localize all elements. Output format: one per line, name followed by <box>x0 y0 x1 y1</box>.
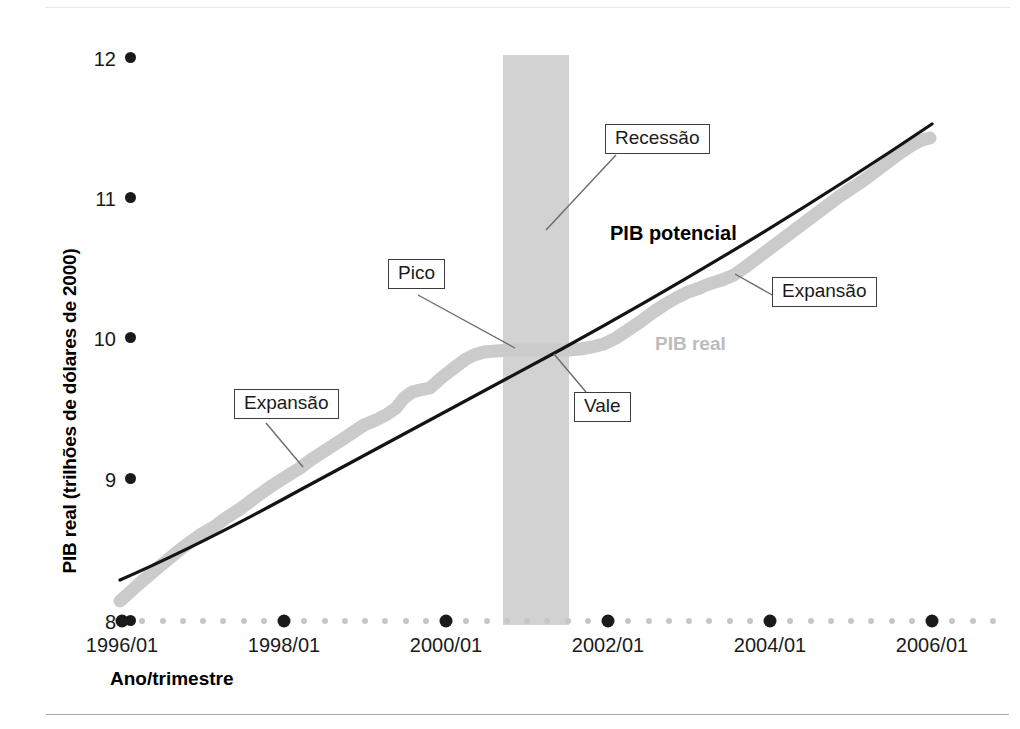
x-tick-dot-minor-icon <box>160 618 166 624</box>
leader-line-expansao-right <box>735 274 774 296</box>
x-tick-dot-minor-icon <box>544 618 550 624</box>
x-tick-label-2004: 2004/01 <box>734 634 806 657</box>
x-tick-dot-minor-icon <box>848 618 854 624</box>
x-tick-dot-minor-icon <box>706 618 712 624</box>
x-tick-dot-minor-icon <box>868 618 874 624</box>
annotation-pico: Pico <box>388 259 445 289</box>
x-tick-dot-minor-icon <box>565 618 571 624</box>
y-tick-dot-icon <box>125 332 136 343</box>
x-tick-dot-major-icon <box>764 615 777 628</box>
annotation-vale: Vale <box>574 392 631 422</box>
series-label-pib-real: PIB real <box>655 333 726 355</box>
x-tick-dot-minor-icon <box>220 618 226 624</box>
series-label-pib-potencial: PIB potencial <box>610 222 737 245</box>
x-tick-dot-major-icon <box>440 615 453 628</box>
x-tick-dot-minor-icon <box>828 618 834 624</box>
y-tick-12: 12 <box>82 47 136 67</box>
x-tick-dot-major-icon <box>926 615 939 628</box>
x-tick-dot-minor-icon <box>909 618 915 624</box>
x-tick-dot-minor-icon <box>625 618 631 624</box>
x-axis-title: Ano/trimestre <box>110 668 234 690</box>
x-tick-dot-minor-icon <box>504 618 510 624</box>
y-tick-10: 10 <box>82 327 136 347</box>
y-tick-dot-icon <box>125 192 136 203</box>
y-tick-label-8: 8 <box>82 612 116 632</box>
y-tick-dot-icon <box>125 52 136 63</box>
y-tick-label-11: 11 <box>82 189 116 209</box>
x-tick-dot-minor-icon <box>342 618 348 624</box>
x-tick-dot-minor-icon <box>403 618 409 624</box>
x-tick-dot-minor-icon <box>322 618 328 624</box>
x-tick-dot-minor-icon <box>301 618 307 624</box>
x-tick-label-2002: 2002/01 <box>572 634 644 657</box>
y-axis-title: PIB real (trilhões de dólares de 2000) <box>59 191 81 631</box>
x-tick-dot-minor-icon <box>139 618 145 624</box>
x-tick-dot-minor-icon <box>747 618 753 624</box>
x-tick-dot-minor-icon <box>180 618 186 624</box>
x-tick-dot-minor-icon <box>524 618 530 624</box>
x-tick-dot-minor-icon <box>382 618 388 624</box>
x-tick-label-1996: 1996/01 <box>86 634 158 657</box>
x-tick-label-2000: 2000/01 <box>410 634 482 657</box>
x-tick-dot-major-icon <box>602 615 615 628</box>
x-tick-dot-minor-icon <box>423 618 429 624</box>
x-tick-dot-minor-icon <box>990 618 996 624</box>
annotation-expansao-right: Expansão <box>772 277 877 307</box>
recession-shaded-band <box>503 55 569 625</box>
x-tick-dot-minor-icon <box>970 618 976 624</box>
x-tick-dot-minor-icon <box>666 618 672 624</box>
y-tick-label-9: 9 <box>82 470 116 490</box>
x-tick-label-1998: 1998/01 <box>248 634 320 657</box>
figure-root: PIB real (trilhões de dólares de 2000) 1… <box>0 0 1020 729</box>
x-tick-dot-major-icon <box>278 615 291 628</box>
leader-line-pico <box>418 295 515 348</box>
x-tick-dot-minor-icon <box>362 618 368 624</box>
x-tick-dot-minor-icon <box>889 618 895 624</box>
y-tick-label-12: 12 <box>82 49 116 69</box>
x-tick-dot-minor-icon <box>686 618 692 624</box>
y-tick-dot-icon <box>125 473 136 484</box>
leader-line-expansao-left <box>266 423 303 467</box>
annotation-expansao-left: Expansão <box>234 389 339 419</box>
x-tick-dot-minor-icon <box>808 618 814 624</box>
x-tick-label-2006: 2006/01 <box>896 634 968 657</box>
x-tick-dot-minor-icon <box>949 618 955 624</box>
x-tick-dot-minor-icon <box>585 618 591 624</box>
x-tick-dot-minor-icon <box>261 618 267 624</box>
x-tick-dot-minor-icon <box>200 618 206 624</box>
x-tick-dot-minor-icon <box>787 618 793 624</box>
y-tick-label-10: 10 <box>82 329 116 349</box>
x-tick-dot-major-icon <box>116 615 129 628</box>
x-tick-dot-minor-icon <box>463 618 469 624</box>
x-tick-dot-minor-icon <box>727 618 733 624</box>
x-tick-dot-minor-icon <box>646 618 652 624</box>
x-tick-dot-minor-icon <box>484 618 490 624</box>
y-tick-11: 11 <box>82 187 136 207</box>
y-tick-9: 9 <box>82 468 136 488</box>
x-tick-dot-minor-icon <box>241 618 247 624</box>
annotation-recessao: Recessão <box>605 124 710 154</box>
plot-canvas <box>0 0 1020 729</box>
